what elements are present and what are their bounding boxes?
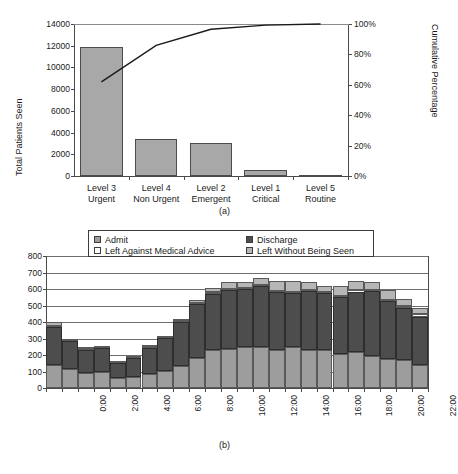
figure-b-bar-segment (253, 286, 269, 347)
figure-b-bar-segment (269, 292, 285, 350)
figure-b-bar-segment (205, 350, 221, 388)
figure-b-bar (301, 282, 317, 388)
figure-b-bar (110, 363, 126, 388)
figure-b-bar-segment (301, 350, 317, 388)
figure-b-x-tick-label: 0:00 (98, 395, 108, 435)
figure-b-bar (333, 286, 349, 388)
figure-b-bar (317, 286, 333, 388)
figure-b-bar (396, 299, 412, 388)
figure-b-bar-segment (317, 286, 333, 292)
figure-b-x-tick (110, 389, 111, 392)
figure-b-bar-segment (253, 278, 269, 285)
legend-row: Left Against Medical AdviceLeft Without … (94, 245, 368, 256)
legend-swatch-disch (246, 236, 253, 243)
figure-b-caption: (b) (0, 440, 449, 450)
figure-b-bar-segment (142, 345, 158, 347)
figure-b-bar-segment (364, 356, 380, 388)
figure-b-x-tick-label: 12:00 (289, 395, 299, 435)
figure-b-x-tick-label: 4:00 (162, 395, 172, 435)
figure-b-bar-segment (46, 327, 62, 365)
figure-b-y-tick-label: 600 (5, 285, 42, 293)
figure-b-x-tick (157, 389, 158, 392)
figure-b-bar-segment (333, 354, 349, 388)
legend-item: Admit (94, 235, 246, 245)
figure-b-bar-segment (46, 322, 62, 326)
figure-a-category-label: Level 5Routine (285, 183, 356, 205)
figure-b-bar-segment (364, 291, 380, 356)
legend-swatch-lwbs (246, 247, 253, 254)
figure-b-x-tick (189, 389, 190, 392)
figure-b-bar-segment (78, 347, 94, 349)
legend-item: Discharge (246, 235, 298, 245)
figure-b-y-tick-label: 800 (5, 252, 42, 260)
figure-b-bar-segment (126, 358, 142, 377)
figure-b-y-tick-label: 500 (5, 302, 42, 310)
figure-b-bar-segment (348, 281, 364, 291)
figure-b-bar-segment (269, 350, 285, 388)
figure-b-bar-segment (285, 347, 301, 388)
figure-b-bar-segment (253, 347, 269, 388)
figure-b-bar-segment (110, 363, 126, 378)
figure-b-x-tick (301, 389, 302, 392)
figure-b-bar-segment (412, 317, 428, 365)
figure-b-x-tick (205, 389, 206, 392)
figure-b-bar-segment (237, 347, 253, 388)
figure-b-bar-segment (412, 365, 428, 388)
figure-b-bar (380, 290, 396, 388)
figure-b-bar-segment (205, 294, 221, 350)
figure-b-bar-segment (380, 290, 396, 299)
legend-row: AdmitDischarge (94, 234, 368, 245)
figure-b-stacked: 01002003004005006007008000:002:004:006:0… (0, 228, 449, 474)
figure-b-y-tick-label: 100 (5, 368, 42, 376)
figure-b-x-tick (269, 389, 270, 392)
figure-b-bar (142, 347, 158, 388)
figure-b-bar-segment (189, 300, 205, 303)
figure-b-x-tick (412, 389, 413, 392)
figure-b-bar (157, 338, 173, 388)
figure-b-y-tick-label: 200 (5, 351, 42, 359)
figure-b-bar-segment (157, 336, 173, 338)
figure-b-bar-segment (364, 282, 380, 290)
figure-b-x-tick-label: 22:00 (448, 395, 458, 435)
figure-b-bar-segment (126, 377, 142, 388)
figure-b-y-tick-label: 700 (5, 269, 42, 277)
figure-b-x-tick (173, 389, 174, 392)
figure-a-pareto: 020004000600080001000012000140000%20%40%… (0, 0, 449, 228)
figure-b-bar-segment (269, 281, 285, 291)
figure-b-bar-segment (333, 286, 349, 296)
legend-label: Left Without Being Seen (257, 246, 354, 256)
legend-item: Left Without Being Seen (246, 246, 354, 256)
figure-a-ylabel-right: Cumulative Percentage (430, 24, 440, 118)
figure-b-x-tick-label: 20:00 (416, 395, 426, 435)
figure-b-bar-segment (110, 361, 126, 363)
figure-b-gridline (46, 273, 429, 274)
figure-b-x-tick-label: 16:00 (353, 395, 363, 435)
figure-b-x-tick (285, 389, 286, 392)
figure-b-bar-segment (173, 319, 189, 321)
figure-b-bar-segment (317, 293, 333, 350)
figure-b-legend: AdmitDischargeLeft Against Medical Advic… (88, 230, 374, 257)
figure-b-bar-segment (380, 301, 396, 359)
figure-b-x-tick-label: 14:00 (321, 395, 331, 435)
figure-b-bar-segment (173, 322, 189, 366)
figure-b-bar (94, 348, 110, 388)
figure-b-bar-segment (78, 350, 94, 373)
figure-b-x-tick (333, 389, 334, 392)
figure-b-bar-segment (317, 350, 333, 388)
figure-b-bar-segment (94, 348, 110, 371)
figure-b-bar-segment (285, 281, 301, 292)
figure-a-category-label-line2: Routine (285, 194, 356, 205)
legend-swatch-lama (94, 247, 101, 254)
figure-b-y-tick-label: 400 (5, 318, 42, 326)
figure-b-x-tick (380, 389, 381, 392)
figure-b-x-tick (94, 389, 95, 392)
figure-b-x-tick (142, 389, 143, 392)
figure-b-x-tick (221, 389, 222, 392)
figure-b-bar-segment (126, 356, 142, 358)
figure-b-x-tick (396, 389, 397, 392)
figure-b-bar (364, 282, 380, 388)
figure-b-bar (348, 281, 364, 388)
figure-b-x-tick-label: 8:00 (225, 395, 235, 435)
figure-b-bar (173, 320, 189, 388)
legend-label: Discharge (257, 235, 298, 245)
